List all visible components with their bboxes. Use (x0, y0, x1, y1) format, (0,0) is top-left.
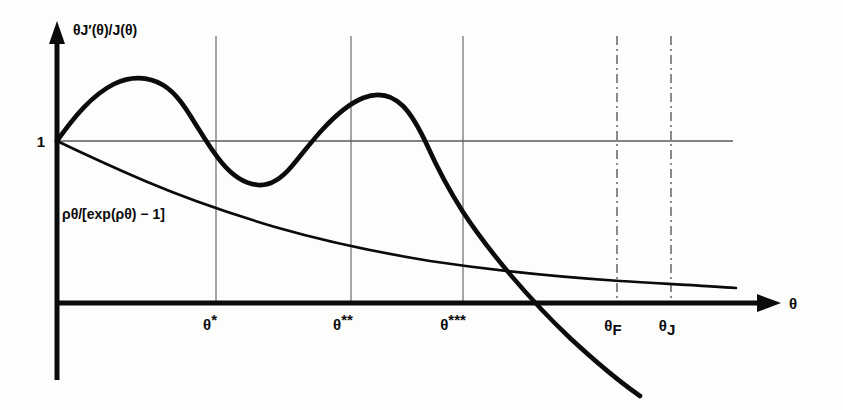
x-axis-title: θ (789, 295, 797, 312)
y-axis-arrow-icon (49, 21, 65, 44)
curve-log-derivative (57, 78, 640, 396)
x-tick-labels-group: θ* θ** θ*** θF θJ (203, 311, 675, 338)
x-tick-label-theta-F: θF (604, 317, 621, 338)
figure-container: 1 θJ′(θ)/J(θ) θ ρθ/[exp(ρθ) − 1] θ* θ** … (0, 0, 843, 410)
x-tick-label-theta-double-star: θ** (333, 311, 353, 333)
y-axis-value-label-one: 1 (37, 133, 45, 150)
y-axis-title: θJ′(θ)/J(θ) (73, 22, 137, 38)
chart-canvas: 1 θJ′(θ)/J(θ) θ ρθ/[exp(ρθ) − 1] θ* θ** … (0, 0, 843, 410)
x-tick-label-theta-triple-star: θ*** (440, 311, 466, 333)
x-axis-arrow-icon (757, 294, 781, 312)
x-tick-label-theta-star: θ* (203, 311, 217, 333)
x-tick-label-theta-J: θJ (659, 317, 675, 338)
curve-label-bose-einstein-factor: ρθ/[exp(ρθ) − 1] (62, 206, 165, 222)
